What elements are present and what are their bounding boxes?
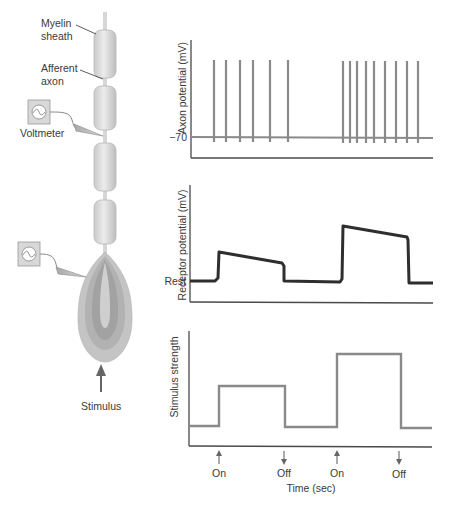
y-axis-label: Stimulus strength (168, 336, 180, 417)
stimulus-arrow-icon (96, 364, 106, 392)
y-tick-label: Rest (164, 275, 186, 287)
event-label-off: Off (392, 468, 406, 480)
voltmeter-label: Voltmeter (20, 127, 65, 139)
voltmeter-icon (18, 242, 86, 277)
y-axis-label: Axon potential (mV) (176, 42, 188, 134)
stimulus-trace (189, 354, 432, 428)
stimulus-label: Stimulus (81, 400, 121, 412)
axon-potential-chart: Axon potential (mV) −70 (169, 40, 433, 158)
y-tick-label: −70 (169, 131, 187, 143)
myelin-segment (94, 86, 116, 130)
arrow-up-icon (216, 450, 222, 464)
myelin-sheath-label-2: sheath (41, 30, 73, 42)
event-label-off: Off (277, 467, 291, 479)
myelin-segment (94, 200, 116, 244)
event-label-on: On (330, 467, 344, 479)
spikes (214, 60, 418, 143)
myelin-segment (94, 143, 116, 191)
neuron-illustration: Stimulus Myelin sheath Afferent axon Vol… (18, 12, 132, 412)
arrow-down-icon (396, 451, 402, 465)
afferent-axon-label-2: axon (41, 75, 64, 87)
stimulus-strength-chart: Stimulus strength On Off On (168, 331, 432, 494)
myelin-segment (94, 30, 116, 78)
event-label-on: On (212, 467, 226, 479)
arrow-down-icon (281, 451, 287, 465)
leader-line (76, 25, 96, 34)
receptor-potential-trace (190, 226, 433, 283)
arrow-up-icon (334, 450, 340, 464)
receptor-ending (78, 252, 132, 362)
receptor-diagram: Stimulus Myelin sheath Afferent axon Vol… (0, 0, 449, 507)
afferent-axon-label: Afferent (41, 62, 78, 74)
x-axis-label: Time (sec) (286, 482, 335, 494)
event-markers: On Off On Off (212, 450, 406, 480)
myelin-sheath-label: Myelin (41, 17, 72, 29)
receptor-potential-chart: Receptor potential (mV) Rest (164, 185, 433, 303)
